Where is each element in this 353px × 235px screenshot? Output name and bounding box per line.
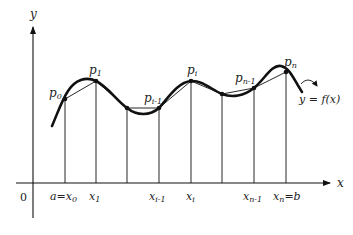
point-p0 (63, 97, 68, 102)
point-r (220, 92, 225, 97)
point-p-n-1 (252, 86, 257, 91)
tick-label-x-i: xi (186, 190, 195, 204)
tick-label-x0: a=x0 (50, 190, 77, 204)
curve-label: y = f(x) (298, 93, 340, 106)
point-p1 (94, 79, 99, 84)
tick-label-x-n: xn=b (273, 190, 301, 204)
polygon-approximation-diagram: y x 0 p0 p1 pi-1 pi pn-1 pn y = f(x) a=x… (0, 0, 353, 235)
tick-label-x-i-1: xi-1 (149, 190, 166, 204)
tick-label-x-n-1: xn-1 (243, 190, 262, 204)
y-axis-label: y (29, 7, 37, 21)
point-p-n (284, 70, 289, 75)
tick-label-x1: x1 (89, 190, 100, 204)
label-p-n: pn (284, 55, 297, 70)
label-p-i: pi (187, 63, 198, 78)
label-p1: p1 (89, 63, 102, 78)
label-p-n-1: pn-1 (235, 71, 256, 86)
x-axis-label: x (337, 176, 344, 190)
point-q (125, 106, 130, 111)
point-p-i (189, 79, 194, 84)
label-p0: p0 (49, 86, 62, 101)
label-p-i-1: pi-1 (144, 91, 162, 106)
curve-label-arrow (301, 80, 317, 86)
origin-label: 0 (20, 191, 27, 204)
point-p-i-1 (157, 106, 162, 111)
